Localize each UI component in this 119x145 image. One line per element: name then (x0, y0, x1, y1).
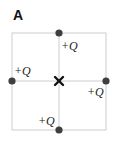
charge-dot-bottom (55, 126, 62, 133)
charge-dot-left (8, 77, 15, 84)
charge-label-bottom: +Q (38, 114, 55, 128)
charge-label-top: +Q (61, 39, 78, 53)
charge-dot-right (102, 77, 109, 84)
charge-dot-top (55, 29, 62, 36)
charge-label-left: +Q (14, 64, 31, 78)
charge-diagram: +Q +Q +Q +Q (0, 0, 119, 145)
charge-label-right: +Q (87, 85, 104, 99)
